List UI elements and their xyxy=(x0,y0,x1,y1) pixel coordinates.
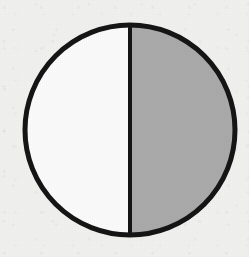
half-shaded-circle-diagram xyxy=(0,0,249,257)
figure-canvas xyxy=(0,0,249,257)
pie-slice-shaded xyxy=(130,25,235,235)
pie-slice-unshaded xyxy=(25,25,130,235)
